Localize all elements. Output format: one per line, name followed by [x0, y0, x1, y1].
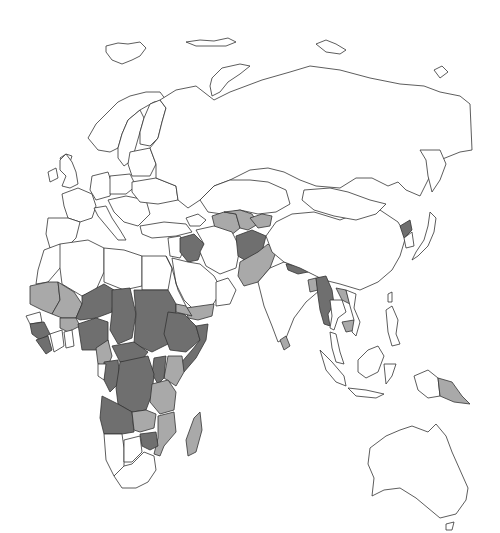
chad — [110, 288, 136, 344]
papua-new-guinea — [438, 378, 470, 404]
franz-josef-land — [186, 38, 236, 46]
france — [62, 188, 96, 222]
burkina-faso — [60, 318, 80, 332]
malawi-mozambique — [154, 412, 176, 456]
tanzania — [150, 380, 176, 414]
senegal — [26, 312, 42, 324]
egypt — [142, 256, 172, 290]
sulawesi — [384, 364, 396, 384]
svalbard — [106, 42, 146, 64]
borneo — [358, 346, 384, 378]
india — [258, 262, 320, 342]
ireland — [48, 168, 58, 182]
ivory-coast — [50, 330, 64, 352]
turkey — [140, 222, 192, 238]
zambia — [132, 410, 156, 432]
new-siberian-islands — [434, 66, 448, 78]
dr-congo — [116, 356, 154, 412]
map-svg — [0, 0, 500, 533]
great-britain — [60, 154, 78, 188]
tasmania — [446, 522, 454, 530]
russia — [150, 66, 472, 208]
japan — [412, 212, 436, 260]
madagascar — [186, 412, 202, 456]
zimbabwe — [140, 432, 158, 450]
germany — [90, 172, 112, 200]
malay-peninsula — [330, 332, 344, 364]
uganda-rwanda-burundi — [152, 356, 166, 384]
oman-uae — [216, 278, 236, 306]
severnaya-zemlya — [316, 40, 346, 54]
caucasus — [186, 214, 206, 226]
ghana — [64, 330, 74, 348]
sumatra — [320, 350, 346, 386]
java — [348, 388, 384, 398]
choropleth-map — [0, 0, 500, 533]
australia — [368, 424, 468, 518]
taiwan — [388, 292, 392, 302]
libya — [104, 248, 142, 290]
new-guinea-west — [414, 370, 440, 398]
philippines — [386, 306, 400, 346]
